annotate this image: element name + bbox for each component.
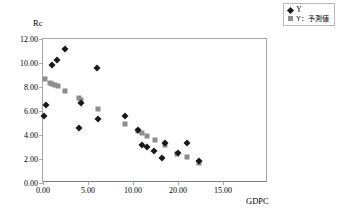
legend-label-y: Y bbox=[296, 6, 302, 15]
data-point bbox=[159, 155, 166, 162]
plot-area: 0.002.004.006.008.0010.0012.00 0.005.001… bbox=[42, 38, 267, 182]
data-point bbox=[42, 101, 49, 108]
x-tick bbox=[133, 181, 134, 185]
legend-label-y-predicted: Y：予測値 bbox=[296, 15, 329, 23]
x-tick-label: 15.00 bbox=[214, 186, 232, 195]
x-axis-title: GDPC bbox=[246, 196, 269, 206]
data-point bbox=[122, 121, 127, 126]
x-tick bbox=[178, 181, 179, 185]
y-tick-label: 2.00 bbox=[24, 155, 38, 164]
data-point bbox=[145, 133, 150, 138]
y-tick-label: 6.00 bbox=[24, 107, 38, 116]
data-point bbox=[49, 62, 56, 69]
x-tick-label: 10.00 bbox=[124, 186, 142, 195]
data-point bbox=[62, 46, 69, 53]
data-point bbox=[151, 148, 158, 155]
data-point bbox=[121, 112, 128, 119]
y-tick-label: 8.00 bbox=[24, 83, 38, 92]
y-tick bbox=[39, 39, 43, 40]
data-point bbox=[75, 124, 82, 131]
data-point bbox=[78, 100, 85, 107]
y-tick-label: 12.00 bbox=[20, 35, 38, 44]
x-tick bbox=[223, 181, 224, 185]
y-tick-label: 4.00 bbox=[24, 131, 38, 140]
data-point bbox=[54, 56, 61, 63]
data-points-layer bbox=[43, 39, 266, 181]
data-point bbox=[41, 113, 48, 120]
x-tick-label: 0.00 bbox=[36, 186, 50, 195]
chart-legend: Y Y：予測値 bbox=[283, 3, 335, 26]
data-point bbox=[94, 65, 101, 72]
y-tick bbox=[39, 135, 43, 136]
data-point bbox=[184, 155, 189, 160]
y-tick-label: 10.00 bbox=[20, 59, 38, 68]
x-tick-label: 20.00 bbox=[169, 186, 187, 195]
square-marker-icon bbox=[288, 16, 293, 21]
legend-item-y: Y bbox=[288, 6, 329, 15]
y-axis-title: Rc bbox=[33, 18, 42, 28]
x-tick bbox=[88, 181, 89, 185]
data-point bbox=[94, 115, 101, 122]
data-point bbox=[95, 106, 100, 111]
x-tick bbox=[43, 181, 44, 185]
data-point bbox=[183, 139, 190, 146]
y-tick bbox=[39, 63, 43, 64]
x-tick-label: 5.00 bbox=[81, 186, 95, 195]
y-tick bbox=[39, 111, 43, 112]
data-point bbox=[55, 84, 60, 89]
diamond-marker-icon bbox=[287, 7, 294, 14]
data-point bbox=[63, 88, 68, 93]
y-tick bbox=[39, 159, 43, 160]
data-point bbox=[152, 138, 157, 143]
y-tick bbox=[39, 87, 43, 88]
data-point bbox=[143, 144, 150, 151]
chart-page: Y Y：予測値 Rc GDPC 0.002.004.006.008.0010.0… bbox=[0, 0, 339, 215]
legend-item-y-predicted: Y：予測値 bbox=[288, 15, 329, 23]
